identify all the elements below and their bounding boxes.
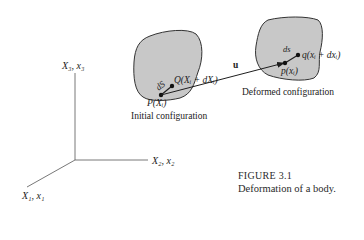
figure-caption-text: Deformation of a body. — [238, 182, 336, 195]
point-P-label: P(Xᵢ) — [146, 98, 166, 109]
point-p-label: p(xᵢ) — [280, 66, 298, 77]
point-Q-label: Q(Xᵢ + dXᵢ) — [174, 75, 218, 86]
x2-axis-label: X₂, x₂ — [151, 155, 175, 166]
displacement-label-u: u — [233, 60, 239, 70]
x3-axis-label: X₃, x₃ — [61, 60, 85, 71]
deformed-configuration-label: Deformed configuration — [242, 87, 334, 97]
segment-ds-label: ds — [283, 44, 291, 54]
point-p — [283, 61, 287, 65]
coordinate-axes — [27, 73, 148, 187]
point-q-label: q(xᵢ + dxᵢ) — [302, 50, 340, 61]
figure-number: FIGURE 3.1 — [238, 169, 336, 182]
initial-configuration-label: Initial configuration — [131, 111, 207, 121]
point-q — [296, 53, 300, 57]
figure-caption: FIGURE 3.1 Deformation of a body. — [238, 169, 336, 195]
x1-axis — [27, 160, 75, 187]
x1-axis-label: X₁, x₁ — [21, 190, 45, 201]
